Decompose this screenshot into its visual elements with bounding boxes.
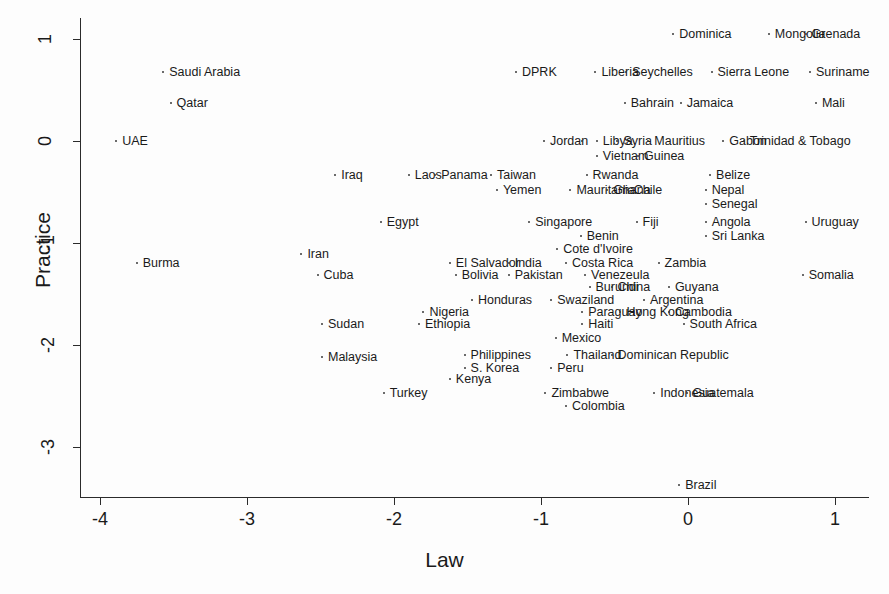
data-point-label: Iraq <box>341 168 363 181</box>
data-point-label: Malaysia <box>328 351 377 364</box>
data-point-label: DPRK <box>522 65 557 78</box>
data-point <box>680 102 682 104</box>
data-point <box>624 102 626 104</box>
data-point <box>768 33 770 35</box>
data-point <box>672 33 674 35</box>
y-axis-title: Practice <box>31 190 55 310</box>
data-point <box>380 221 382 223</box>
data-point <box>317 274 319 276</box>
data-point <box>565 405 567 407</box>
data-point <box>636 221 638 223</box>
data-point <box>809 71 811 73</box>
x-axis-title: Law <box>0 548 889 572</box>
data-point-label: Belize <box>716 168 750 181</box>
data-point <box>464 367 466 369</box>
x-tick-mark <box>100 498 101 505</box>
x-tick-mark <box>247 498 248 505</box>
data-point <box>586 174 588 176</box>
data-point-label: Chile <box>634 184 663 197</box>
data-point <box>627 189 629 191</box>
data-point <box>658 262 660 264</box>
data-point-label: Peru <box>557 362 583 375</box>
data-point <box>625 71 627 73</box>
data-point-label: South Africa <box>690 317 757 330</box>
data-point-label: Thailand <box>573 349 621 362</box>
data-point-label: Haiti <box>588 317 613 330</box>
data-point <box>556 248 558 250</box>
data-point <box>508 274 510 276</box>
data-point <box>584 274 586 276</box>
data-point <box>581 311 583 313</box>
data-point <box>455 274 457 276</box>
data-point <box>555 337 557 339</box>
data-point <box>418 323 420 325</box>
data-point-label: UAE <box>122 135 148 148</box>
data-point-label: Egypt <box>387 215 419 228</box>
data-point-label: Benin <box>587 230 619 243</box>
data-point-label: Jamaica <box>687 97 734 110</box>
data-point-label: Sudan <box>328 317 364 330</box>
data-point <box>550 367 552 369</box>
data-point <box>705 221 707 223</box>
data-point <box>434 174 436 176</box>
x-tick-label: 0 <box>683 509 693 530</box>
data-point <box>802 274 804 276</box>
data-point-label: Mali <box>822 97 845 110</box>
data-point-label: Turkey <box>390 387 428 400</box>
data-point-label: Vietnam <box>603 150 649 163</box>
data-point-label: Guyana <box>675 281 719 294</box>
data-point <box>668 286 670 288</box>
data-point <box>544 392 546 394</box>
data-point <box>709 174 711 176</box>
data-point <box>596 140 598 142</box>
x-tick-label: -4 <box>92 509 108 530</box>
data-point-label: Mexico <box>562 332 602 345</box>
data-point <box>300 253 302 255</box>
x-axis-line <box>80 497 869 498</box>
data-point-label: Saudi Arabia <box>169 65 240 78</box>
data-point <box>334 174 336 176</box>
data-point <box>722 140 724 142</box>
data-point-label: Kenya <box>456 372 491 385</box>
data-point-label: Nepal <box>712 184 745 197</box>
data-point-label: Cote d'Ivoire <box>563 243 633 256</box>
y-tick-label: 1 <box>35 34 56 44</box>
data-point-label: Philippines <box>471 349 531 362</box>
data-point-label: Sierra Leone <box>718 65 790 78</box>
data-point <box>515 71 517 73</box>
data-point <box>408 174 410 176</box>
x-tick-mark <box>835 498 836 505</box>
data-point <box>805 221 807 223</box>
data-point-label: Rwanda <box>593 168 639 181</box>
data-point <box>683 323 685 325</box>
data-point <box>611 286 613 288</box>
data-point-label: Yemen <box>503 184 541 197</box>
data-point <box>580 235 582 237</box>
data-point-label: Colombia <box>572 400 625 413</box>
data-point <box>705 235 707 237</box>
y-tick-label: -3 <box>38 439 59 455</box>
data-point-label: Zambia <box>665 257 707 270</box>
x-tick-label: -3 <box>239 509 255 530</box>
data-point <box>594 71 596 73</box>
data-point-label: Dominican Republic <box>618 349 729 362</box>
data-point-label: Taiwan <box>497 168 536 181</box>
data-point-label: Brazil <box>685 478 716 491</box>
data-point <box>449 378 451 380</box>
data-point-label: Fiji <box>643 215 659 228</box>
data-point <box>162 71 164 73</box>
data-point-label: Qatar <box>177 97 208 110</box>
y-tick-mark <box>73 141 80 142</box>
data-point <box>383 392 385 394</box>
data-point <box>170 102 172 104</box>
data-point-label: Dominica <box>679 28 731 41</box>
data-point-label: Bolivia <box>462 268 499 281</box>
data-point <box>550 299 552 301</box>
data-point <box>565 262 567 264</box>
y-tick-label: 0 <box>35 136 56 146</box>
data-point-label: Guinea <box>644 150 684 163</box>
data-point <box>686 392 688 394</box>
data-point <box>136 262 138 264</box>
data-point-label: Honduras <box>478 294 532 307</box>
data-point <box>528 221 530 223</box>
